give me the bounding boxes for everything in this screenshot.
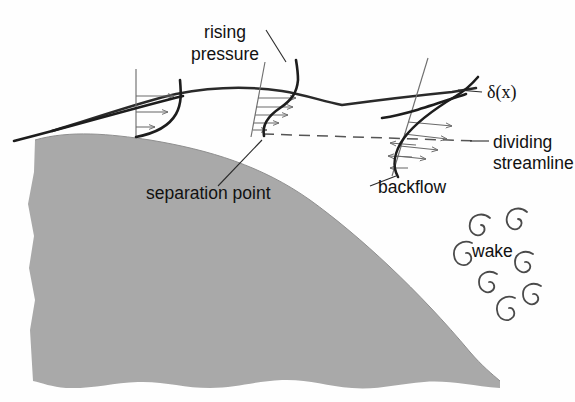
velocity-profile-backflow — [382, 58, 478, 177]
label-rising-pressure-line1: rising — [204, 22, 246, 42]
label-wake: wake — [471, 241, 513, 261]
label-dividing-line1: dividing — [493, 132, 552, 152]
figure-root: rising pressure δ(x) dividing streamline… — [0, 0, 575, 402]
eddy-icon-3 — [454, 242, 472, 265]
separation-diagram: rising pressure δ(x) dividing streamline… — [0, 0, 575, 402]
label-delta-x: δ(x) — [487, 82, 516, 103]
eddy-icon-7 — [497, 297, 515, 320]
velocity-profile-separation — [251, 60, 298, 137]
solid-body — [28, 134, 500, 388]
wake-eddies — [454, 209, 541, 321]
eddy-icon-1 — [507, 209, 527, 230]
eddy-icon-6 — [523, 284, 541, 304]
label-backflow: backflow — [378, 177, 446, 197]
dividing-streamline — [263, 134, 478, 141]
label-dividing-line2: streamline — [493, 153, 574, 173]
label-rising-pressure-line2: pressure — [191, 44, 259, 64]
velocity-profile-attached — [14, 69, 183, 141]
eddy-icon-5 — [479, 272, 497, 292]
eddy-icon-2 — [470, 215, 490, 236]
label-separation-point: separation point — [146, 183, 271, 203]
eddy-icon-4 — [515, 252, 533, 272]
leader-rising-pressure — [266, 30, 286, 62]
